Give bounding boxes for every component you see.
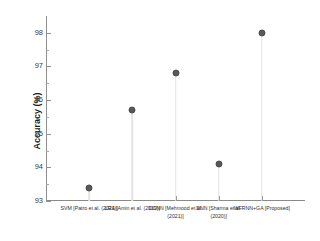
y-tick-label: 93 — [35, 197, 43, 205]
y-tick-major: 95 — [46, 134, 51, 135]
y-tick-minor — [46, 117, 49, 118]
data-point-marker[interactable] — [258, 29, 265, 36]
y-tick-major: 93 — [46, 201, 51, 202]
y-tick-major: 97 — [46, 66, 51, 67]
y-tick-major: 98 — [46, 33, 51, 34]
y-tick-major: 94 — [46, 167, 51, 168]
y-tick-minor — [46, 50, 49, 51]
data-point-marker[interactable] — [129, 107, 136, 114]
y-tick-label: 97 — [35, 63, 43, 71]
x-axis-category-label: WFRNN+GA [Proposed] — [231, 205, 293, 213]
plot-area: 939495969798 — [46, 16, 305, 201]
y-tick-label: 98 — [35, 29, 43, 37]
data-point-stem — [218, 164, 220, 201]
data-point-stem — [175, 73, 177, 201]
data-point-marker[interactable] — [86, 184, 93, 191]
y-tick-label: 94 — [35, 164, 43, 172]
y-tick-minor — [46, 83, 49, 84]
y-tick-minor — [46, 151, 49, 152]
data-point-stem — [132, 110, 134, 201]
y-tick-label: 95 — [35, 130, 43, 138]
y-tick-label: 96 — [35, 96, 43, 104]
data-point-marker[interactable] — [172, 70, 179, 77]
y-axis-line — [46, 16, 47, 201]
data-point-marker[interactable] — [215, 161, 222, 168]
data-point-stem — [261, 33, 263, 201]
y-tick-major: 96 — [46, 100, 51, 101]
y-tick-minor — [46, 184, 49, 185]
accuracy-comparison-chart: Accuracy (%) 939495969798 SVM [Patro et … — [0, 0, 320, 241]
